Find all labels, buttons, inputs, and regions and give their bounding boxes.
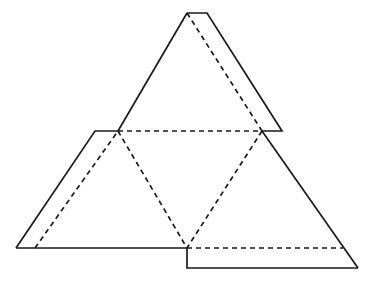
geometric-net-figure — [0, 0, 377, 288]
figure-canvas — [0, 0, 377, 288]
